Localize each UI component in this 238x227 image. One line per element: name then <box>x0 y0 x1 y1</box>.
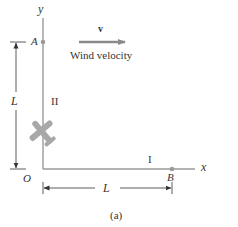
vertical-dimension-label: L <box>11 95 18 107</box>
x-axis-label: x <box>201 161 206 173</box>
horizontal-dimension-label: L <box>103 182 110 194</box>
y-axis-label: y <box>38 3 43 15</box>
leg-i-label: I <box>148 154 152 165</box>
wind-velocity-caption: Wind velocity <box>70 50 132 61</box>
wind-vector-label: v <box>98 24 103 34</box>
wind-velocity-diagram: y x O A B II I L L v Wind velocity (a) <box>0 0 238 227</box>
point-b-label: B <box>167 172 174 183</box>
leg-ii-label: II <box>51 96 58 107</box>
point-a-label: A <box>31 36 38 47</box>
origin-label: O <box>23 173 31 184</box>
figure-caption: (a) <box>110 210 122 221</box>
point-a-marker <box>41 40 46 45</box>
